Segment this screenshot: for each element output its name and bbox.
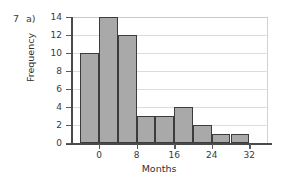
bar: [231, 134, 250, 143]
bar: [99, 17, 118, 143]
x-tick-24: [212, 144, 213, 149]
x-tick-label-32: 32: [243, 151, 254, 160]
y-tick-label-6: 6: [56, 85, 62, 94]
x-tick-32: [249, 144, 250, 149]
bar: [118, 35, 137, 143]
y-tick-label-4: 4: [56, 103, 62, 112]
bar: [137, 116, 156, 143]
y-tick-label-10: 10: [51, 49, 62, 58]
x-tick-8: [137, 144, 138, 149]
y-axis-title: Frequency: [25, 23, 36, 93]
x-tick-0: [99, 144, 100, 149]
bar: [80, 53, 99, 143]
y-tick-label-12: 12: [51, 31, 62, 40]
bar: [212, 134, 231, 143]
y-tick-label-0: 0: [56, 139, 62, 148]
y-tick-label-2: 2: [56, 121, 62, 130]
y-tick-0: [66, 143, 71, 144]
x-axis-line: [66, 143, 272, 145]
bar: [155, 116, 174, 143]
x-tick-label-8: 8: [134, 151, 140, 160]
x-tick-label-16: 16: [168, 151, 179, 160]
question-number: 7: [13, 13, 19, 24]
bars-group: [71, 17, 268, 143]
y-tick-label-14: 14: [51, 13, 62, 22]
bar: [174, 107, 193, 143]
bar: [193, 125, 212, 143]
x-tick-label-24: 24: [206, 151, 217, 160]
x-tick-label-0: 0: [96, 151, 102, 160]
y-tick-label-8: 8: [56, 67, 62, 76]
x-tick-16: [174, 144, 175, 149]
histogram-figure: 7a) 02468101214 08162432 Frequency Month…: [0, 0, 281, 178]
x-axis-title: Months: [0, 163, 281, 174]
